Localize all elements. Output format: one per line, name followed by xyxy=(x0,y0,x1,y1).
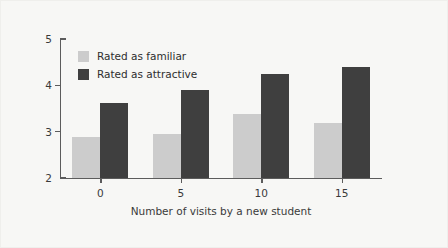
bar-attractive-0 xyxy=(100,103,128,178)
chart-figure: 0510155432 Number of visits by a new stu… xyxy=(0,0,448,248)
y-tick-label-3: 3 xyxy=(12,127,52,137)
plot-area: 0510155432 Number of visits by a new stu… xyxy=(0,0,448,248)
legend-item-familiar: Rated as familiar xyxy=(78,47,197,65)
bar-attractive-15 xyxy=(342,67,370,178)
y-tick-label-2: 2 xyxy=(12,173,52,183)
legend-swatch-attractive xyxy=(78,69,89,80)
y-tick-3 xyxy=(55,131,61,132)
x-tick-0 xyxy=(100,178,101,183)
legend-item-attractive: Rated as attractive xyxy=(78,65,197,83)
bar-familiar-15 xyxy=(314,123,342,178)
legend-label-attractive: Rated as attractive xyxy=(97,68,197,80)
x-tick-15 xyxy=(342,178,343,183)
x-tick-label-0: 0 xyxy=(80,188,120,199)
legend-label-familiar: Rated as familiar xyxy=(97,50,186,62)
bar-familiar-0 xyxy=(72,137,100,178)
chart-legend: Rated as familiar Rated as attractive xyxy=(78,47,197,83)
x-tick-label-10: 10 xyxy=(241,188,281,199)
x-tick-5 xyxy=(181,178,182,183)
y-tick-5 xyxy=(60,38,66,39)
x-tick-label-5: 5 xyxy=(161,188,201,199)
y-tick-2 xyxy=(60,177,66,178)
bar-attractive-5 xyxy=(181,90,209,178)
x-tick-10 xyxy=(261,178,262,183)
x-tick-label-15: 15 xyxy=(322,188,362,199)
bar-familiar-5 xyxy=(153,134,181,178)
y-axis-line xyxy=(60,39,61,179)
y-tick-label-4: 4 xyxy=(12,80,52,90)
x-axis-title: Number of visits by a new student xyxy=(60,205,382,217)
bar-familiar-10 xyxy=(233,114,261,178)
bar-attractive-10 xyxy=(261,74,289,178)
legend-swatch-familiar xyxy=(78,51,89,62)
y-tick-4 xyxy=(55,85,61,86)
x-axis-line xyxy=(60,178,382,179)
y-tick-label-5: 5 xyxy=(12,34,52,44)
